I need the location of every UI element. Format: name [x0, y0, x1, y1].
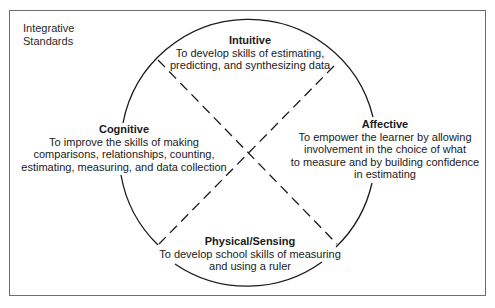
- quadrant-title: Intuitive: [170, 34, 330, 47]
- quadrant-title: Affective: [285, 118, 485, 131]
- diagram-title-line: Standards: [23, 35, 74, 48]
- quadrant-description-line: to measure and by building confidence: [285, 156, 485, 169]
- quadrant-description-line: predicting, and synthesizing data: [170, 59, 330, 72]
- diagram-title: Integrative Standards: [23, 22, 74, 48]
- quadrant-description-line: To develop skills of estimating,: [170, 47, 330, 60]
- quadrant-affective: Affective To empower the learner by allo…: [285, 118, 485, 181]
- quadrant-description-line: estimating, measuring, and data collecti…: [18, 161, 230, 174]
- quadrant-title: Cognitive: [18, 123, 230, 136]
- quadrant-description-line: To improve the skills of making: [18, 136, 230, 149]
- quadrant-description-line: To empower the learner by allowing: [285, 131, 485, 144]
- quadrant-description-line: in estimating: [285, 168, 485, 181]
- quadrant-physical-sensing: Physical/Sensing To develop school skill…: [155, 235, 345, 273]
- quadrant-description-line: and using a ruler: [155, 260, 345, 273]
- quadrant-description-line: comparisons, relationships, counting,: [18, 148, 230, 161]
- quadrant-title: Physical/Sensing: [155, 235, 345, 248]
- diagram-title-line: Integrative: [23, 22, 74, 35]
- quadrant-intuitive: Intuitive To develop skills of estimatin…: [170, 34, 330, 72]
- quadrant-description-line: involvement in the choice of what: [285, 143, 485, 156]
- quadrant-cognitive: Cognitive To improve the skills of makin…: [18, 123, 230, 173]
- quadrant-description-line: To develop school skills of measuring: [155, 248, 345, 261]
- circle-arc-left: [121, 175, 158, 245]
